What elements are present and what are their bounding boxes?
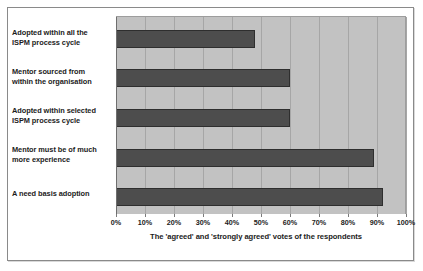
bar-3[interactable] xyxy=(116,149,374,167)
tick-mark-90% xyxy=(377,214,378,217)
category-label-3-line2: more experience xyxy=(12,155,70,164)
bar-1[interactable] xyxy=(116,69,290,87)
chart-figure-frame: Adopted within all the ISPM process cycl… xyxy=(7,7,414,261)
x-axis-title: The 'agreed' and 'strongly agreed' votes… xyxy=(104,232,408,241)
category-label-3-line1: Mentor must be of much xyxy=(12,145,97,154)
tick-label-40%: 40% xyxy=(225,218,239,227)
category-label-1-line1: Mentor sourced from xyxy=(12,67,85,76)
tick-label-90%: 90% xyxy=(370,218,384,227)
tick-label-50%: 50% xyxy=(254,218,268,227)
tick-label-60%: 60% xyxy=(283,218,297,227)
tick-mark-0% xyxy=(116,214,117,217)
category-label-1: Mentor sourced from within the organisat… xyxy=(12,67,116,86)
bar-series xyxy=(116,17,405,214)
tick-label-0%: 0% xyxy=(111,218,121,227)
category-label-4: A need basis adoption xyxy=(12,189,116,199)
tick-label-20%: 20% xyxy=(167,218,181,227)
bar-2[interactable] xyxy=(116,109,290,127)
tick-mark-20% xyxy=(174,214,175,217)
tick-mark-80% xyxy=(348,214,349,217)
tick-mark-10% xyxy=(145,214,146,217)
tick-mark-30% xyxy=(203,214,204,217)
category-label-2-line2: ISPM process cycle xyxy=(12,116,80,125)
category-label-1-line2: within the organisation xyxy=(12,77,92,86)
value-axis-line xyxy=(116,17,117,214)
plot-area xyxy=(116,16,406,214)
category-label-0: Adopted within all the ISPM process cycl… xyxy=(12,28,116,47)
category-axis: Adopted within all the ISPM process cycl… xyxy=(12,16,116,214)
category-label-4-line1: A need basis adoption xyxy=(12,189,90,198)
tick-mark-50% xyxy=(261,214,262,217)
category-label-2: Adopted within selected ISPM process cyc… xyxy=(12,106,116,125)
category-label-0-line1: Adopted within all the xyxy=(12,28,88,37)
tick-label-100%: 100% xyxy=(397,218,415,227)
tick-mark-40% xyxy=(232,214,233,217)
tick-mark-60% xyxy=(290,214,291,217)
bar-4[interactable] xyxy=(116,188,383,206)
gridline-100% xyxy=(406,17,407,214)
tick-label-80%: 80% xyxy=(341,218,355,227)
tick-label-30%: 30% xyxy=(196,218,210,227)
tick-label-10%: 10% xyxy=(138,218,152,227)
tick-label-70%: 70% xyxy=(312,218,326,227)
tick-mark-100% xyxy=(406,214,407,217)
category-label-3: Mentor must be of much more experience xyxy=(12,145,116,164)
bar-0[interactable] xyxy=(116,30,255,48)
value-axis: 0%10%20%30%40%50%60%70%80%90%100% xyxy=(116,214,407,230)
category-label-0-line2: ISPM process cycle xyxy=(12,38,80,47)
tick-mark-70% xyxy=(319,214,320,217)
category-label-2-line1: Adopted within selected xyxy=(12,106,96,115)
